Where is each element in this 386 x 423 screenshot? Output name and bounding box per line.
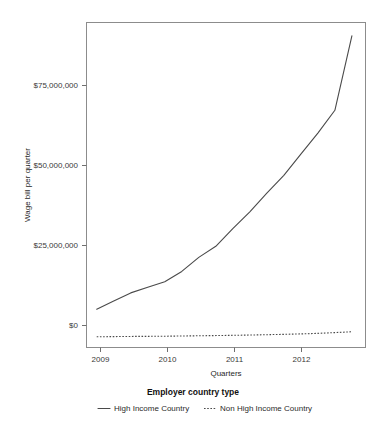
x-tick-label-1: 2010 [159, 355, 177, 364]
y-tick-label-3: $75,000,000 [34, 81, 79, 90]
chart-container: $0 $25,000,000 $50,000,000 $75,000,000 2… [0, 0, 386, 423]
legend-title: Employer country type [147, 387, 239, 397]
legend-label-high-income-country[interactable]: High Income Country [114, 404, 189, 413]
x-tick-label-3: 2012 [293, 355, 311, 364]
line-chart: $0 $25,000,000 $50,000,000 $75,000,000 2… [0, 0, 386, 423]
y-tick-label-0: $0 [69, 321, 78, 330]
y-axis-title: Wage bill per quarter [23, 148, 32, 222]
y-tick-label-2: $50,000,000 [34, 161, 79, 170]
chart-background [0, 0, 386, 423]
x-tick-label-0: 2009 [92, 355, 110, 364]
x-tick-label-2: 2011 [226, 355, 244, 364]
x-axis-title: Quarters [210, 369, 241, 378]
y-tick-label-1: $25,000,000 [34, 241, 79, 250]
legend-label-non-high-income-country[interactable]: Non High Income Country [220, 404, 312, 413]
